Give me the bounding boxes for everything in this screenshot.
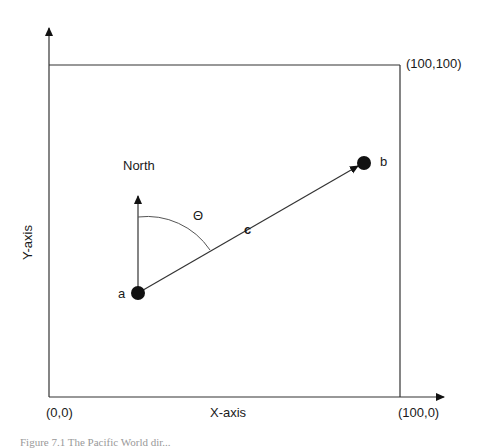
- figure-caption: Figure 7.1 The Pacific World dir...: [20, 436, 171, 448]
- north-label: North: [123, 158, 155, 173]
- point-a: [131, 286, 145, 300]
- origin-label: (0,0): [46, 405, 73, 420]
- point-b: [357, 156, 371, 170]
- x-axis-label: X-axis: [210, 405, 246, 420]
- point-a-label: a: [118, 286, 125, 301]
- corner-label: (100,100): [406, 56, 462, 71]
- y-axis-label: Y-axis: [20, 225, 35, 260]
- angle-label: Θ: [193, 208, 203, 223]
- vector-c-label: c: [244, 222, 251, 237]
- x-max-label: (100,0): [398, 405, 439, 420]
- point-b-label: b: [380, 154, 387, 169]
